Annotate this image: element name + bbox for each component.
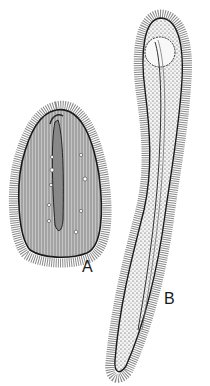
label-a: A [82,258,93,276]
organism-a [13,105,107,263]
organism-b [110,14,188,378]
organism-b-body [115,18,182,372]
label-b: B [164,290,175,308]
organism-b-oral-apparatus [145,37,175,67]
protozoa-illustration [0,0,210,386]
